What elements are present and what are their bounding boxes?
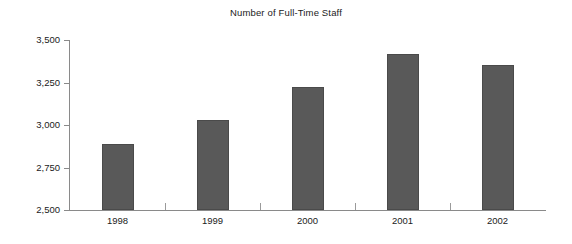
chart-title: Number of Full-Time Staff bbox=[0, 7, 572, 18]
y-axis-tick bbox=[64, 168, 70, 169]
y-axis-tick-label: 3,250 bbox=[14, 77, 60, 88]
y-axis-tick bbox=[64, 210, 70, 211]
bar-2002 bbox=[482, 65, 514, 210]
bar-1999 bbox=[197, 120, 229, 210]
y-axis-tick bbox=[64, 40, 70, 41]
x-axis-tick bbox=[355, 203, 356, 210]
x-axis-tick-label-1999: 1999 bbox=[202, 215, 223, 226]
x-axis-tick bbox=[165, 203, 166, 210]
x-axis-line bbox=[69, 210, 546, 211]
x-axis-tick-label-2000: 2000 bbox=[297, 215, 318, 226]
bar-1998 bbox=[102, 144, 134, 210]
x-axis-tick bbox=[450, 203, 451, 210]
x-axis-tick bbox=[260, 203, 261, 210]
y-axis-tick-label: 2,500 bbox=[14, 204, 60, 215]
y-axis-tick bbox=[64, 83, 70, 84]
y-axis-tick bbox=[64, 125, 70, 126]
y-axis-tick-label: 3,000 bbox=[14, 119, 60, 130]
bar-chart-figure: Number of Full-Time Staff 2,5002,7503,00… bbox=[0, 0, 572, 244]
bar-2001 bbox=[387, 54, 419, 210]
x-axis-tick-label-2002: 2002 bbox=[487, 215, 508, 226]
y-axis-tick-label: 2,750 bbox=[14, 162, 60, 173]
x-axis-tick-label-1998: 1998 bbox=[107, 215, 128, 226]
bar-2000 bbox=[292, 87, 324, 210]
y-axis-tick-label: 3,500 bbox=[14, 34, 60, 45]
x-axis-tick-label-2001: 2001 bbox=[392, 215, 413, 226]
